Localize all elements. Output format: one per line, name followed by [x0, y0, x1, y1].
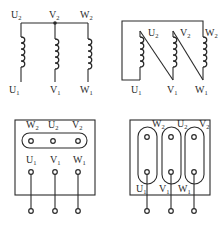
- label-v1: V1: [159, 183, 169, 195]
- supply-lead-1: [145, 209, 150, 214]
- label-w1: W1: [80, 84, 93, 96]
- label-u1: U1: [131, 84, 141, 96]
- terminal-u1: [29, 170, 34, 175]
- label-w2: W2: [26, 119, 39, 131]
- label-w2: W2: [205, 27, 218, 39]
- label-v2: V2: [180, 27, 190, 39]
- label-w1: W1: [178, 183, 191, 195]
- star-terminal-box: W2 U2 V2 U1 V1 W1: [15, 119, 95, 213]
- supply-lead-3: [192, 209, 197, 214]
- delta-windings-diagram: U2 V2 W2 U1 V1 W1: [122, 21, 218, 96]
- terminal-w1: [76, 170, 81, 175]
- terminal-v2: [192, 135, 197, 140]
- label-u2: U2: [148, 27, 158, 39]
- terminal-w1: [192, 170, 197, 175]
- delta-return-loop: [122, 21, 203, 80]
- supply-lead-2: [53, 209, 58, 214]
- terminal-w2: [145, 135, 150, 140]
- label-v1: V1: [167, 84, 177, 96]
- label-u2: U2: [48, 119, 58, 131]
- terminal-v1: [53, 170, 58, 175]
- supply-lead-3: [76, 209, 81, 214]
- delta-terminal-box: W2 U2 V2 U1 V1 W1: [130, 118, 210, 213]
- label-u1: U1: [9, 84, 19, 96]
- label-v2: V2: [49, 9, 59, 21]
- label-u1: U1: [136, 183, 146, 195]
- terminal-u2: [169, 135, 174, 140]
- motor-winding-diagrams: U2 V2 W2 U1 V1 W1 U2 V2 W2 U1 V1 W1: [0, 0, 223, 231]
- winding-u-coil-icon: [21, 37, 25, 67]
- terminal-v1: [169, 170, 174, 175]
- label-v1: V1: [50, 154, 60, 166]
- label-v1: V1: [50, 84, 60, 96]
- terminal-u1: [145, 170, 150, 175]
- supply-lead-2: [169, 209, 174, 214]
- supply-lead-1: [29, 209, 34, 214]
- label-u1: U1: [26, 154, 36, 166]
- label-w1: W1: [195, 84, 208, 96]
- label-w1: W1: [73, 154, 86, 166]
- winding-v-coil-icon: [55, 39, 59, 69]
- winding-v-coil-icon: [173, 37, 177, 67]
- label-w2: W2: [80, 9, 93, 21]
- terminal-u2: [51, 139, 56, 144]
- winding-w-coil-icon: [203, 37, 207, 67]
- terminal-v2: [76, 139, 81, 144]
- label-u2: U2: [11, 9, 21, 21]
- winding-w-coil-icon: [88, 39, 92, 69]
- star-windings-diagram: U2 V2 W2 U1 V1 W1: [9, 9, 93, 96]
- label-v2: V2: [72, 119, 82, 131]
- winding-u-coil-icon: [140, 37, 144, 67]
- terminal-w2: [29, 139, 34, 144]
